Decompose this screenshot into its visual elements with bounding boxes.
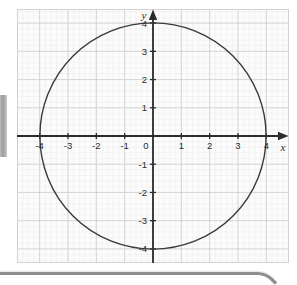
screenshot-page: -4-3-2-101234-4-3-2-11234 x y bbox=[0, 0, 297, 285]
y-tick-label: -4 bbox=[139, 243, 147, 254]
x-tick-label: -3 bbox=[64, 140, 72, 151]
x-tick-label: 4 bbox=[264, 140, 269, 151]
x-tick-label: 1 bbox=[179, 140, 184, 151]
y-tick-label: -3 bbox=[139, 215, 147, 226]
coordinate-plane-graph: -4-3-2-101234-4-3-2-11234 x y bbox=[17, 9, 289, 263]
x-tick-label: -2 bbox=[92, 140, 100, 151]
y-tick-label: -2 bbox=[139, 187, 147, 198]
y-tick-label: 1 bbox=[142, 102, 147, 113]
y-axis-label: y bbox=[141, 9, 147, 21]
graph-plot-area: -4-3-2-101234-4-3-2-11234 x y bbox=[17, 9, 289, 263]
left-edge-tab bbox=[0, 95, 7, 157]
x-tick-label: -4 bbox=[35, 140, 43, 151]
x-tick-label: 0 bbox=[143, 140, 148, 151]
x-tick-label: 2 bbox=[207, 140, 212, 151]
x-tick-label: 3 bbox=[235, 140, 240, 151]
bottom-bar-shape bbox=[0, 266, 297, 285]
x-tick-label: -1 bbox=[120, 140, 128, 151]
y-tick-label: -1 bbox=[139, 159, 147, 170]
bottom-divider-bar bbox=[0, 266, 297, 285]
bottom-bar-line bbox=[0, 274, 276, 284]
x-axis-label: x bbox=[280, 141, 286, 153]
y-tick-label: 3 bbox=[142, 46, 147, 57]
y-tick-label: 2 bbox=[142, 74, 147, 85]
